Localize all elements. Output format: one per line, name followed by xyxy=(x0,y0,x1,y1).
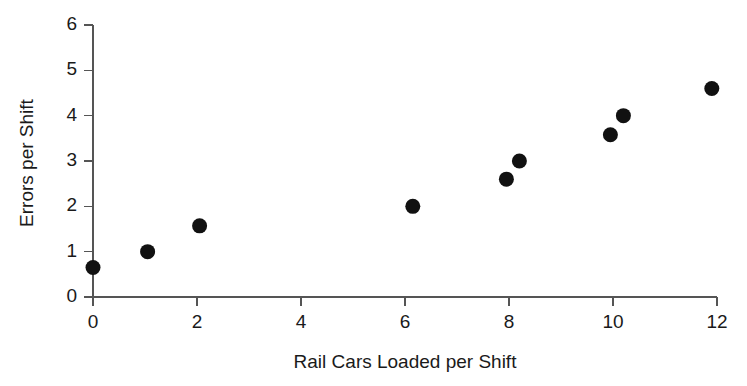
data-point xyxy=(192,218,207,233)
y-tick-label: 1 xyxy=(66,240,77,261)
y-axis-ticks xyxy=(84,25,93,297)
data-point xyxy=(616,108,631,123)
x-axis-tick-labels: 024681012 xyxy=(88,311,728,332)
y-tick-label: 4 xyxy=(66,104,77,125)
x-tick-label: 10 xyxy=(602,311,623,332)
y-tick-label: 3 xyxy=(66,149,77,170)
data-point xyxy=(140,244,155,259)
data-point xyxy=(704,81,719,96)
x-tick-label: 12 xyxy=(706,311,727,332)
x-tick-label: 0 xyxy=(88,311,99,332)
y-tick-label: 0 xyxy=(66,285,77,306)
scatter-chart: 0123456 024681012 Rail Cars Loaded per S… xyxy=(0,0,747,386)
data-point xyxy=(86,260,101,275)
y-tick-label: 6 xyxy=(66,13,77,34)
data-point xyxy=(603,127,618,142)
data-point xyxy=(512,154,527,169)
data-point xyxy=(499,172,514,187)
data-points xyxy=(86,81,720,275)
x-axis-ticks xyxy=(93,297,717,306)
x-tick-label: 4 xyxy=(296,311,307,332)
x-tick-label: 6 xyxy=(400,311,411,332)
x-tick-label: 2 xyxy=(192,311,203,332)
y-tick-label: 2 xyxy=(66,194,77,215)
plot-area: 0123456 024681012 Rail Cars Loaded per S… xyxy=(0,0,747,386)
x-tick-label: 8 xyxy=(504,311,515,332)
y-axis-tick-labels: 0123456 xyxy=(66,13,77,306)
y-axis-title: Errors per Shift xyxy=(16,98,37,226)
y-tick-label: 5 xyxy=(66,58,77,79)
x-axis-title: Rail Cars Loaded per Shift xyxy=(294,351,518,372)
data-point xyxy=(405,199,420,214)
